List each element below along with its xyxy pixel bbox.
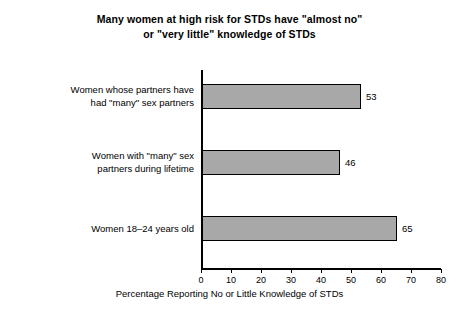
x-tick-5: [351, 269, 352, 273]
x-tick-label-4: 40: [309, 275, 333, 285]
x-tick-label-1: 10: [219, 275, 243, 285]
chart-title: Many women at high risk for STDs have "a…: [0, 12, 459, 42]
bar-women-many-partners: [202, 150, 340, 175]
chart-title-line-1: Many women at high risk for STDs have "a…: [0, 12, 459, 27]
x-tick-8: [441, 269, 442, 273]
category-label-1-line-1: Women with "many" sex: [9, 149, 194, 162]
x-tick-0: [201, 269, 202, 273]
x-tick-label-7: 70: [399, 275, 423, 285]
x-tick-label-8: 80: [429, 275, 453, 285]
category-label-2: Women 18–24 years old: [9, 222, 194, 235]
x-tick-label-6: 60: [369, 275, 393, 285]
x-tick-4: [321, 269, 322, 273]
chart-title-line-2: or "very little" knowledge of STDs: [0, 27, 459, 42]
bar-value-0: 53: [361, 84, 377, 109]
category-label-0: Women whose partners have had "many" sex…: [9, 83, 194, 109]
bar-women-partners-many: [202, 84, 361, 109]
plot-area: 0 10 20 30 40 50 60 70 80 53 Women whose…: [201, 70, 441, 268]
x-tick-7: [411, 269, 412, 273]
x-tick-6: [381, 269, 382, 273]
category-label-2-line-1: Women 18–24 years old: [9, 222, 194, 235]
x-tick-label-3: 30: [279, 275, 303, 285]
x-tick-label-5: 50: [339, 275, 363, 285]
chart-figure: Many women at high risk for STDs have "a…: [0, 0, 459, 313]
bar-value-2: 65: [397, 216, 413, 241]
x-tick-1: [231, 269, 232, 273]
category-label-1-line-2: partners during lifetime: [9, 162, 194, 175]
category-label-0-line-2: had "many" sex partners: [9, 96, 194, 109]
bar-women-18-24: [202, 216, 397, 241]
x-axis-label: Percentage Reporting No or Little Knowle…: [0, 288, 459, 299]
x-tick-label-0: 0: [189, 275, 213, 285]
category-label-0-line-1: Women whose partners have: [9, 83, 194, 96]
category-label-1: Women with "many" sex partners during li…: [9, 149, 194, 175]
bar-value-1: 46: [340, 150, 356, 175]
x-tick-label-2: 20: [249, 275, 273, 285]
x-tick-2: [261, 269, 262, 273]
x-tick-3: [291, 269, 292, 273]
